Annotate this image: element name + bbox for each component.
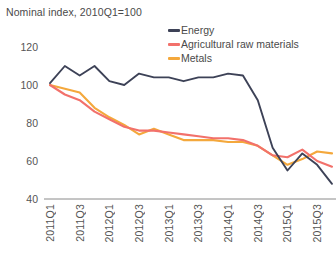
y-axis: 120100806040 <box>0 0 38 266</box>
commodity-price-index-chart: Nominal index, 2010Q1=100 Energy Agricul… <box>0 0 336 266</box>
series-line-agricultural-raw-materials <box>50 85 332 167</box>
x-axis-tick-label: 2015Q1 <box>281 204 293 243</box>
x-axis-tick-label: 2011Q3 <box>74 204 86 242</box>
y-axis-tick-label: 80 <box>26 117 38 129</box>
series-line-metals <box>50 85 332 165</box>
y-axis-tick-label: 40 <box>26 193 38 205</box>
y-axis-tick-label: 120 <box>20 41 38 53</box>
y-axis-tick-label: 100 <box>20 79 38 91</box>
x-axis-tick-label: 2015Q3 <box>311 204 323 243</box>
x-axis-tick-label: 2013Q1 <box>163 204 175 243</box>
x-axis-tick-label: 2013Q3 <box>192 204 204 243</box>
x-axis-tick-label: 2012Q1 <box>103 204 115 243</box>
y-axis-tick-label: 60 <box>26 155 38 167</box>
x-axis-tick-label: 2011Q1 <box>44 204 56 242</box>
series-line-energy <box>50 66 332 184</box>
x-axis-tick-label: 2014Q1 <box>222 204 234 243</box>
x-axis-tick-label: 2012Q3 <box>133 204 145 243</box>
x-axis: 2011Q12011Q32012Q12012Q32013Q12013Q32014… <box>44 204 336 266</box>
x-axis-tick-label: 2014Q3 <box>252 204 264 243</box>
